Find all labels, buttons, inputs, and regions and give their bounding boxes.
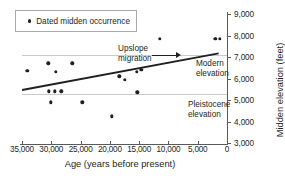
- upslope-arrow-head-icon: [176, 52, 181, 58]
- annotation-upslope-line2: migration: [118, 54, 152, 64]
- x-tick-label: 5,000: [188, 145, 208, 154]
- data-point: [54, 70, 57, 73]
- y-tick-mark: [227, 122, 231, 123]
- annotation-upslope-migration: Upslope migration: [118, 44, 152, 63]
- midden-elevation-chart: 9,0008,0007,0006,0005,0004,0003,000 35,0…: [0, 0, 285, 180]
- y-axis-title-text: Midden elevation (feet): [275, 43, 285, 138]
- y-tick-label: 6,000: [234, 74, 254, 83]
- y-tick-label: 4,000: [234, 117, 254, 126]
- legend: Dated midden occurrence: [15, 10, 137, 32]
- data-point: [214, 37, 217, 40]
- legend-label: Dated midden occurrence: [36, 17, 130, 26]
- y-tick-label: 5,000: [234, 96, 254, 105]
- data-point: [81, 100, 84, 103]
- data-point: [49, 100, 52, 103]
- annotation-pleistocene-elevation: Pleistocene elevation: [188, 100, 230, 119]
- y-tick-label: 9,000: [234, 10, 254, 19]
- legend-marker-icon: [28, 19, 31, 22]
- y-tick-mark: [227, 36, 231, 37]
- x-tick-label: 25,000: [69, 145, 93, 154]
- plot-area: [22, 14, 227, 143]
- data-point: [26, 69, 29, 72]
- x-axis-title: Age (years before present): [0, 159, 240, 169]
- x-tick-label: 20,000: [98, 145, 122, 154]
- annotation-pleistocene-line2: elevation: [188, 110, 230, 120]
- data-point: [71, 62, 74, 65]
- x-tick-label: 35,000: [10, 145, 34, 154]
- data-point: [140, 68, 143, 71]
- data-point: [118, 75, 121, 78]
- x-tick-label: 10,000: [157, 145, 181, 154]
- upslope-arrow-shaft-icon: [152, 55, 178, 56]
- data-point: [218, 37, 221, 40]
- annotation-pleistocene-line1: Pleistocene: [188, 100, 230, 110]
- y-axis-title: Midden elevation (feet): [273, 0, 285, 180]
- data-point: [123, 78, 126, 81]
- y-tick-mark: [227, 57, 231, 58]
- data-point: [135, 70, 138, 73]
- annotation-modern-line1: Modern: [196, 59, 229, 69]
- annotation-modern-elevation: Modern elevation: [196, 59, 229, 78]
- y-tick-label: 7,000: [234, 53, 254, 62]
- data-point: [158, 37, 161, 40]
- x-tick-label: 0: [225, 145, 229, 154]
- reference-line: [22, 94, 227, 95]
- y-tick-label: 3,000: [234, 139, 254, 148]
- y-tick-label: 8,000: [234, 31, 254, 40]
- x-tick-label: 30,000: [39, 145, 63, 154]
- data-point: [110, 114, 113, 117]
- annotation-modern-line2: elevation: [196, 69, 229, 79]
- data-point: [47, 62, 50, 65]
- x-tick-label: 15,000: [127, 145, 151, 154]
- y-tick-mark: [227, 79, 231, 80]
- y-tick-mark: [227, 14, 231, 15]
- annotation-upslope-line1: Upslope: [118, 44, 152, 54]
